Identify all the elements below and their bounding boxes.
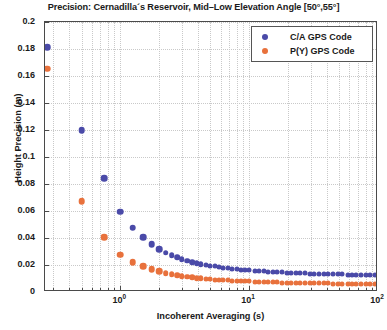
- gridline-horizontal: [45, 130, 376, 132]
- x-tick-mark: [339, 288, 340, 291]
- y-tick-label: 0.06: [17, 205, 35, 215]
- x-tick-mark: [114, 288, 115, 291]
- chart-legend: C/A GPS CodeP(Y) GPS Code: [251, 26, 373, 62]
- gridline-horizontal: [45, 184, 376, 186]
- x-tick-mark: [69, 288, 70, 291]
- data-point: [117, 251, 124, 258]
- gridline-horizontal: [45, 76, 376, 78]
- x-tick-mark: [243, 288, 244, 291]
- data-point: [156, 246, 163, 253]
- y-axis-tick-labels: 00.020.040.060.080.10.120.140.160.180.2: [0, 21, 40, 291]
- x-tick-mark: [92, 288, 93, 291]
- y-tick-mark: [45, 103, 49, 104]
- y-tick-label: 0.12: [17, 124, 35, 134]
- legend-item[interactable]: P(Y) GPS Code: [252, 44, 372, 58]
- data-point: [44, 44, 50, 51]
- gridline-vertical: [210, 22, 212, 290]
- y-tick-mark: [45, 22, 49, 23]
- data-point: [156, 268, 163, 275]
- gridline-vertical: [53, 22, 55, 290]
- x-tick-mark: [249, 286, 250, 290]
- legend-marker-icon: [262, 34, 268, 40]
- x-tick-mark: [108, 288, 109, 291]
- chart-title: Precision: Cernadilla´s Reservoir, Mid–L…: [0, 2, 387, 12]
- data-point: [44, 65, 50, 72]
- y-tick-label: 0.08: [17, 178, 35, 188]
- gridline-vertical: [108, 22, 110, 290]
- x-tick-mark: [358, 288, 359, 291]
- data-point: [247, 268, 252, 273]
- x-tick-mark: [53, 288, 54, 291]
- data-point: [376, 273, 378, 278]
- gridline-horizontal: [45, 238, 376, 240]
- y-tick-label: 0.2: [22, 16, 35, 26]
- x-tick-mark: [221, 288, 222, 291]
- gridline-vertical: [339, 22, 341, 290]
- x-tick-mark: [349, 288, 350, 291]
- y-tick-mark: [45, 184, 49, 185]
- y-tick-label: 0.04: [17, 232, 35, 242]
- x-tick-mark: [311, 288, 312, 291]
- legend-label: P(Y) GPS Code: [290, 46, 355, 56]
- data-point: [376, 282, 378, 287]
- x-tick-mark: [237, 288, 238, 291]
- x-tick-mark: [120, 286, 121, 290]
- gridline-horizontal: [45, 22, 376, 24]
- chart-figure: Precision: Cernadilla´s Reservoir, Mid–L…: [0, 0, 387, 330]
- x-axis-tick-labels: 100101102: [44, 293, 377, 311]
- data-point: [163, 250, 169, 256]
- x-tick-mark: [327, 288, 328, 291]
- legend-item[interactable]: C/A GPS Code: [252, 30, 372, 44]
- x-tick-label: 102: [370, 293, 384, 305]
- legend-marker-icon: [262, 48, 268, 54]
- gridline-vertical: [182, 22, 184, 290]
- gridline-vertical: [120, 22, 122, 290]
- gridline-vertical: [349, 22, 351, 290]
- data-point: [148, 266, 155, 273]
- data-point: [247, 279, 252, 284]
- y-tick-label: 0.14: [17, 97, 35, 107]
- gridline-vertical: [311, 22, 313, 290]
- y-tick-mark: [45, 130, 49, 131]
- gridline-vertical: [366, 22, 368, 290]
- gridline-vertical: [229, 22, 231, 290]
- data-point: [148, 241, 155, 248]
- gridline-vertical: [114, 22, 116, 290]
- gridline-vertical: [198, 22, 200, 290]
- legend-label: C/A GPS Code: [290, 32, 352, 42]
- y-tick-label: 0.1: [22, 151, 35, 161]
- data-point: [130, 225, 137, 232]
- x-tick-mark: [182, 288, 183, 291]
- x-tick-label: 101: [241, 293, 255, 305]
- gridline-vertical: [92, 22, 94, 290]
- gridline-vertical: [249, 22, 251, 290]
- gridline-vertical: [69, 22, 71, 290]
- gridline-vertical: [221, 22, 223, 290]
- gridline-vertical: [372, 22, 374, 290]
- gridline-vertical: [358, 22, 360, 290]
- y-tick-mark: [45, 238, 49, 239]
- x-tick-mark: [100, 288, 101, 291]
- x-tick-mark: [198, 288, 199, 291]
- x-tick-mark: [366, 288, 367, 291]
- data-point: [163, 270, 169, 276]
- data-point: [140, 263, 147, 270]
- x-tick-mark: [229, 288, 230, 291]
- y-tick-mark: [45, 76, 49, 77]
- y-tick-mark: [45, 265, 49, 266]
- gridline-horizontal: [45, 157, 376, 159]
- x-tick-label: 100: [113, 293, 127, 305]
- y-tick-label: 0.18: [17, 43, 35, 53]
- x-tick-mark: [288, 288, 289, 291]
- gridline-vertical: [82, 22, 84, 290]
- x-tick-mark: [210, 288, 211, 291]
- data-point: [78, 127, 85, 134]
- x-tick-mark: [159, 288, 160, 291]
- y-tick-mark: [45, 157, 49, 158]
- x-axis-title: Incoherent Averaging (s): [44, 311, 377, 321]
- data-point: [78, 198, 85, 205]
- y-tick-label: 0.02: [17, 259, 35, 269]
- gridline-vertical: [237, 22, 239, 290]
- gridline-vertical: [327, 22, 329, 290]
- data-point: [130, 259, 137, 266]
